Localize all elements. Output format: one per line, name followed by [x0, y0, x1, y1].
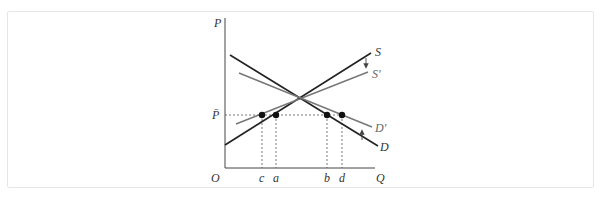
- quantity-label-d: d: [339, 171, 346, 185]
- label-d: D: [379, 140, 389, 154]
- supply-demand-diagram: P Q O P̄ S S' D' D c a b d: [0, 0, 603, 199]
- demand-curve-d: [230, 55, 378, 146]
- origin-label: O: [211, 171, 220, 185]
- label-d-prime: D': [374, 121, 387, 135]
- quantity-label-c: c: [259, 171, 265, 185]
- point-a: [273, 112, 279, 118]
- price-level-label: P̄: [211, 108, 220, 122]
- demand-curve-d-prime: [239, 73, 372, 127]
- y-axis-label: P: [213, 16, 222, 30]
- label-s: S: [375, 45, 381, 59]
- quantity-label-a: a: [273, 171, 279, 185]
- label-s-prime: S': [372, 67, 381, 81]
- quantity-label-b: b: [324, 171, 330, 185]
- x-axis-label: Q: [376, 171, 385, 185]
- point-b: [324, 112, 330, 118]
- point-d: [339, 112, 345, 118]
- point-c: [259, 112, 265, 118]
